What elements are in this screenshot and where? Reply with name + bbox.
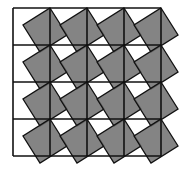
tiling-diagram (0, 0, 189, 186)
tilted-squares (23, 8, 178, 163)
